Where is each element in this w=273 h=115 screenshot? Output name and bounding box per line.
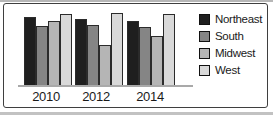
bar-south-2014 bbox=[139, 27, 151, 87]
bar-northeast-2012 bbox=[75, 19, 87, 87]
legend-label-west: West bbox=[215, 65, 240, 76]
bar-northeast-2014 bbox=[127, 21, 139, 87]
legend-swatch-west bbox=[199, 65, 210, 76]
legend-swatch-midwest bbox=[199, 48, 210, 59]
x-axis-label-2012: 2012 bbox=[72, 89, 120, 104]
bar-south-2012 bbox=[87, 25, 99, 87]
legend-swatch-northeast bbox=[199, 14, 210, 25]
bar-chart-figure: 2010 2012 2014 Northeast South Midwest W… bbox=[0, 0, 273, 115]
bar-midwest-2010 bbox=[48, 21, 60, 87]
bar-midwest-2012 bbox=[99, 45, 111, 87]
legend-item-west: West bbox=[199, 65, 262, 76]
legend-label-midwest: Midwest bbox=[215, 48, 255, 59]
bar-west-2010 bbox=[60, 14, 72, 87]
x-axis-line bbox=[18, 85, 193, 87]
bar-south-2010 bbox=[36, 26, 48, 87]
legend-item-northeast: Northeast bbox=[199, 14, 262, 25]
legend-item-midwest: Midwest bbox=[199, 48, 262, 59]
x-axis-label-2010: 2010 bbox=[22, 89, 70, 104]
x-axis-label-2014: 2014 bbox=[126, 89, 174, 104]
bar-west-2014 bbox=[163, 14, 175, 87]
bar-west-2012 bbox=[111, 13, 123, 87]
legend-label-south: South bbox=[215, 31, 244, 42]
legend-item-south: South bbox=[199, 31, 262, 42]
legend: Northeast South Midwest West bbox=[199, 14, 262, 76]
bar-northeast-2010 bbox=[24, 17, 36, 87]
legend-label-northeast: Northeast bbox=[215, 14, 262, 25]
legend-swatch-south bbox=[199, 31, 210, 42]
bar-midwest-2014 bbox=[151, 36, 163, 87]
